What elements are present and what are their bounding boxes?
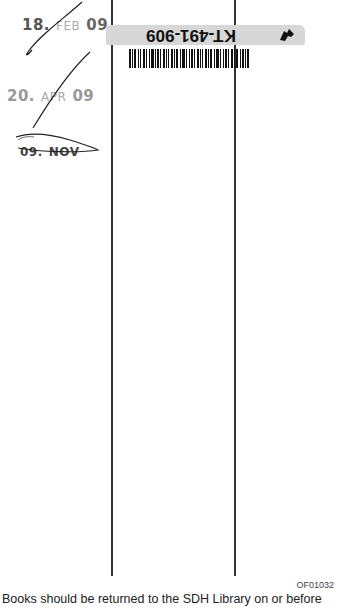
return-notice: Books should be returned to the SDH Libr… [2, 592, 322, 606]
date-stamp-1: 18.FEB09 [22, 15, 108, 34]
barcode-id: KT-491-909 [106, 25, 276, 45]
barcode-label: KT-491-909 [106, 25, 305, 68]
barcode [129, 49, 289, 68]
column-divider-left [111, 0, 113, 576]
stamp-day: 18. [22, 16, 50, 34]
stamp-month: FEB [56, 19, 80, 33]
form-code: OF01032 [296, 580, 334, 590]
column-divider-right [234, 0, 236, 576]
stamp-day: 20. [7, 87, 35, 105]
stamp-month: NOV [49, 145, 80, 159]
date-stamp-3: 09.NOV [20, 141, 79, 160]
stamp-day: 09. [20, 145, 43, 159]
stamp-month: APR [41, 90, 66, 104]
stamp-year: 09 [72, 87, 94, 105]
date-stamp-2: 20.APR09 [7, 86, 94, 105]
stamp-year: 09 [86, 16, 108, 34]
arrow-icon [279, 28, 295, 42]
